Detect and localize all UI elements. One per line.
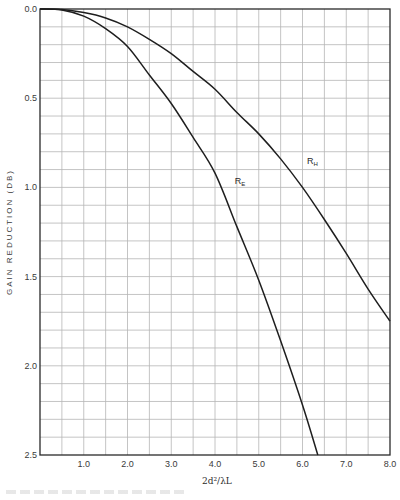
x-tick-label: 7.0	[340, 459, 353, 469]
x-tick-label: 8.0	[384, 459, 397, 469]
x-tick-label: 2.0	[121, 459, 134, 469]
y-tick-label: 1.5	[24, 272, 37, 282]
y-tick-label: 2.5	[24, 450, 37, 460]
y-tick-label: 2.0	[24, 361, 37, 371]
chart-grid	[40, 9, 390, 455]
curve-r-e	[40, 9, 318, 455]
y-tick-label: 0.5	[24, 93, 37, 103]
curve-label-r-e: RE	[235, 176, 246, 187]
x-tick-label: 1.0	[77, 459, 90, 469]
curve-label-r-h: RH	[307, 156, 318, 167]
x-axis-ticks: 1.02.03.04.05.06.07.08.0	[77, 459, 396, 469]
x-tick-label: 3.0	[165, 459, 178, 469]
x-axis-label: 2d²/λL	[202, 476, 232, 486]
x-tick-label: 4.0	[209, 459, 222, 469]
x-tick-label: 6.0	[296, 459, 309, 469]
y-tick-label: 1.0	[24, 182, 37, 192]
figure-caption-illegible	[6, 490, 186, 494]
x-tick-label: 5.0	[252, 459, 265, 469]
y-tick-label: 0.0	[24, 4, 37, 14]
y-axis-ticks: 0.00.51.01.52.02.5	[24, 4, 37, 460]
y-axis-label: GAIN REDUCTION (DB)	[5, 169, 14, 295]
gain-reduction-chart: RHRE 0.00.51.01.52.02.5 1.02.03.04.05.06…	[0, 0, 400, 500]
